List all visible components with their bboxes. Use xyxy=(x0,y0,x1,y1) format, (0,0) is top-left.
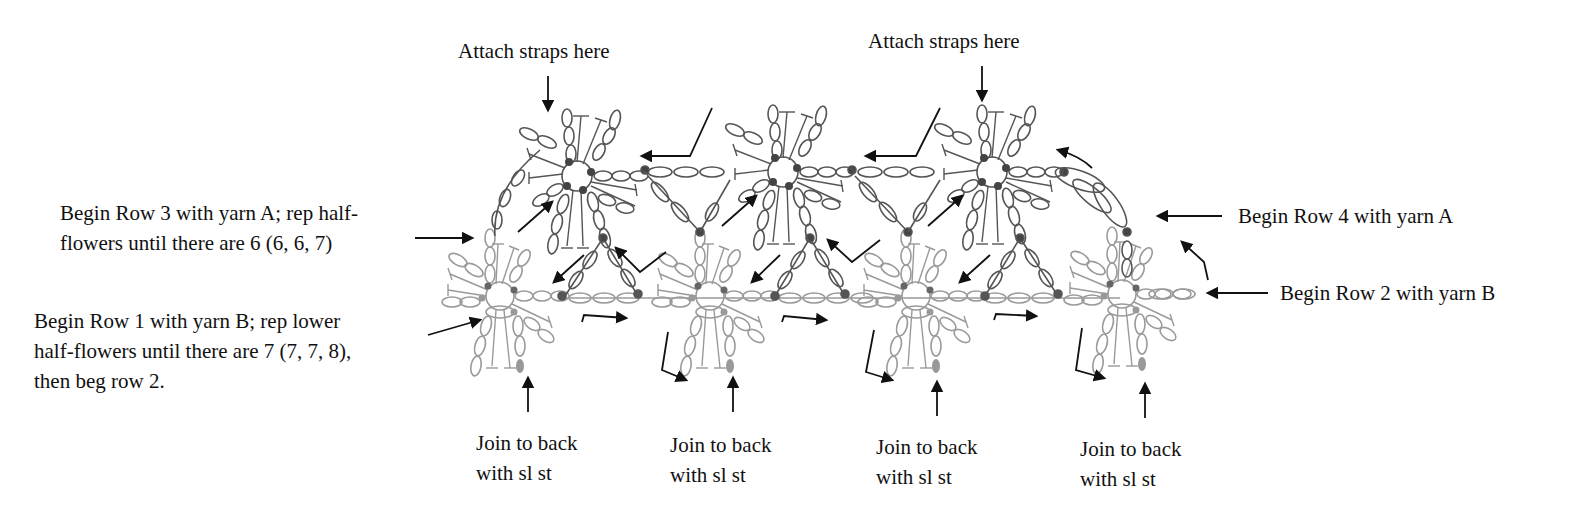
label-text: Attach straps here xyxy=(868,26,1020,56)
label-row2: Begin Row 2 with yarn B xyxy=(1280,278,1495,308)
label-row4: Begin Row 4 with yarn A xyxy=(1238,201,1453,231)
label-attach-straps-left: Attach straps here xyxy=(458,36,610,66)
lower-half-flower-1 xyxy=(442,229,569,377)
label-text: Begin Row 4 with yarn A xyxy=(1238,201,1453,231)
label-line: with sl st xyxy=(876,462,977,492)
lower-half-flower-2 xyxy=(652,229,779,377)
arrow-row1 xyxy=(428,320,480,335)
label-line: with sl st xyxy=(1080,464,1181,494)
arrow-row2-turn xyxy=(1182,242,1208,280)
label-line: then beg row 2. xyxy=(34,366,351,396)
lower-half-flower-4 xyxy=(1064,227,1191,375)
label-line: Join to back xyxy=(1080,434,1181,464)
upper-half-flower-1 xyxy=(518,109,648,255)
label-row3: Begin Row 3 with yarn A; rep half- flowe… xyxy=(60,198,358,258)
label-text: Attach straps here xyxy=(458,36,610,66)
label-line: Join to back xyxy=(670,430,771,460)
label-line: with sl st xyxy=(670,460,771,490)
label-line: Join to back xyxy=(476,428,577,458)
label-join-3: Join to back with sl st xyxy=(876,432,977,492)
label-line: Begin Row 1 with yarn B; rep lower xyxy=(34,306,351,336)
label-line: Join to back xyxy=(876,432,977,462)
upper-half-flower-3 xyxy=(933,105,1063,251)
label-line: flowers until there are 6 (6, 6, 7) xyxy=(60,228,358,258)
label-join-1: Join to back with sl st xyxy=(476,428,577,488)
label-join-2: Join to back with sl st xyxy=(670,430,771,490)
label-row1: Begin Row 1 with yarn B; rep lower half-… xyxy=(34,306,351,396)
label-line: with sl st xyxy=(476,458,577,488)
lower-half-flower-3 xyxy=(858,229,985,377)
label-line: Begin Row 3 with yarn A; rep half- xyxy=(60,198,358,228)
label-text: Begin Row 2 with yarn B xyxy=(1280,278,1495,308)
label-line: half-flowers until there are 7 (7, 7, 8)… xyxy=(34,336,351,366)
label-join-4: Join to back with sl st xyxy=(1080,434,1181,494)
upper-half-flower-2 xyxy=(724,105,854,251)
label-attach-straps-right: Attach straps here xyxy=(868,26,1020,56)
crochet-chart xyxy=(0,0,1574,519)
